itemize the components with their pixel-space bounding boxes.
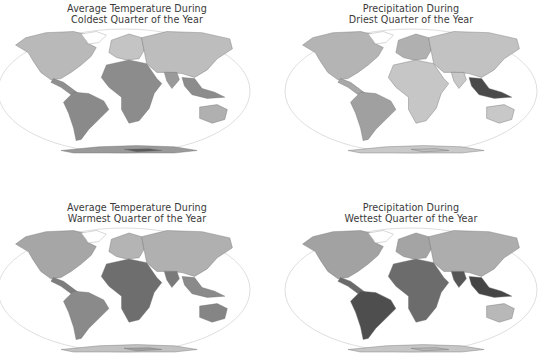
panel-driest-precip: Precipitation During Driest Quarter of t… bbox=[274, 0, 548, 182]
panel-warmest-temp: Average Temperature During Warmest Quart… bbox=[0, 182, 274, 364]
world-map bbox=[0, 0, 274, 182]
panel-coldest-temp: Average Temperature During Coldest Quart… bbox=[0, 0, 274, 182]
panel-wettest-precip: Precipitation During Wettest Quarter of … bbox=[274, 182, 548, 364]
world-map bbox=[274, 182, 548, 364]
world-map bbox=[274, 0, 548, 182]
world-map bbox=[0, 182, 274, 364]
